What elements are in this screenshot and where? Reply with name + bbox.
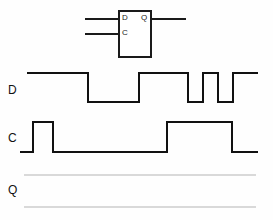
timing-diagram-canvas: D Q C D C Q <box>0 0 273 220</box>
c-waveform-trace <box>20 122 258 152</box>
d-waveform-trace <box>27 73 258 102</box>
waveform-traces <box>0 0 273 220</box>
